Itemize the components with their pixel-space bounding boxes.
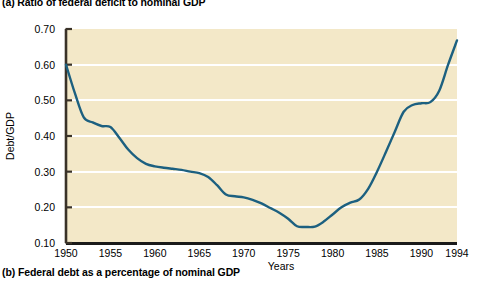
x-axis-tick-labels: 1950195519601965197019751980198519901994	[54, 247, 469, 259]
y-tick-label: 0.50	[35, 94, 56, 106]
x-tick-label: 1960	[143, 247, 167, 259]
y-axis-tick-labels: 0.100.200.300.400.500.600.70	[35, 23, 56, 249]
figure-panel-a: (a) Ratio of federal deficit to nominal …	[0, 0, 481, 284]
y-tick-label: 0.10	[35, 237, 56, 249]
y-axis-title: Debt/GDP	[4, 112, 16, 160]
x-tick-label: 1980	[321, 247, 345, 259]
x-tick-label: 1970	[232, 247, 256, 259]
y-tick-label: 0.40	[35, 130, 56, 142]
x-tick-label: 1950	[54, 247, 78, 259]
y-tick-label: 0.30	[35, 166, 56, 178]
y-tick-label: 0.60	[35, 59, 56, 71]
y-tick-label: 0.20	[35, 201, 56, 213]
x-axis-title: Years	[268, 260, 294, 272]
x-tick-label: 1994	[445, 247, 469, 259]
y-tick-label: 0.70	[35, 23, 56, 35]
line-chart: 0.100.200.300.400.500.600.70 19501955196…	[0, 0, 481, 284]
x-tick-label: 1975	[276, 247, 300, 259]
x-tick-label: 1990	[410, 247, 434, 259]
x-tick-label: 1955	[99, 247, 123, 259]
figure-caption-b: (b) Federal debt as a percentage of nomi…	[2, 266, 240, 278]
x-tick-label: 1985	[365, 247, 389, 259]
x-tick-label: 1965	[188, 247, 212, 259]
